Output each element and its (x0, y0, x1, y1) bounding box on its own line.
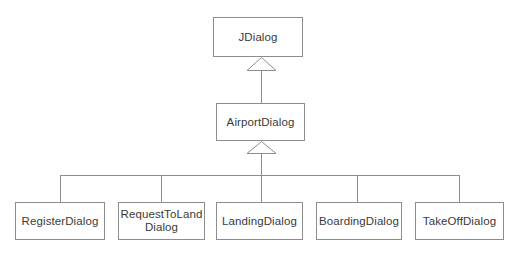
connector-drop-boardingdialog (357, 175, 358, 202)
class-name-registerdialog: RegisterDialog (19, 215, 102, 228)
class-box-airportdialog[interactable]: AirportDialog (216, 103, 305, 141)
class-name-boardingdialog: BoardingDialog (316, 215, 402, 228)
connector-drop-requesttolanddialog (161, 175, 162, 202)
connector-bus-to-airportdialog (261, 153, 262, 202)
class-box-boardingdialog[interactable]: BoardingDialog (316, 202, 402, 240)
class-name-airportdialog: AirportDialog (224, 116, 298, 129)
class-name-jdialog: JDialog (235, 31, 280, 44)
connector-horizontal-bus (60, 175, 460, 176)
class-box-jdialog[interactable]: JDialog (213, 17, 303, 57)
class-name-landingdialog: LandingDialog (219, 215, 300, 228)
connector-drop-takeoffdialog (459, 175, 460, 202)
connector-drop-registerdialog (60, 175, 61, 202)
class-box-registerdialog[interactable]: RegisterDialog (15, 202, 105, 240)
connector-airportdialog-to-jdialog (261, 70, 262, 103)
uml-class-diagram: JDialog AirportDialog RegisterDialog Req… (0, 0, 519, 257)
class-name-requesttolanddialog: RequestToLand Dialog (118, 208, 206, 234)
class-name-takeoffdialog: TakeOffDialog (420, 215, 499, 228)
class-box-requesttolanddialog[interactable]: RequestToLand Dialog (118, 202, 205, 240)
class-box-takeoffdialog[interactable]: TakeOffDialog (415, 202, 504, 240)
generalization-arrow-airportdialog-to-jdialog (246, 57, 277, 71)
class-box-landingdialog[interactable]: LandingDialog (216, 202, 303, 240)
